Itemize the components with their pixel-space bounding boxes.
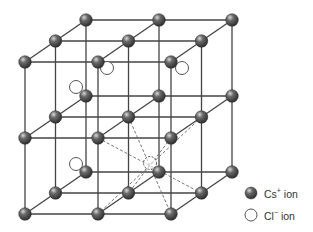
cs-ion <box>153 90 166 103</box>
cs-ion <box>226 14 239 27</box>
cs-ion <box>153 14 166 27</box>
cl-symbol: Cl <box>264 209 274 221</box>
cs-ion <box>19 56 32 69</box>
legend-label-cl: Cl− ion <box>264 209 295 222</box>
cs-ion <box>165 56 178 69</box>
cs-ion <box>195 35 208 48</box>
cs-ion <box>19 132 32 145</box>
cs-ion <box>80 90 93 103</box>
cs-symbol: Cs <box>264 187 277 199</box>
cs-ion <box>165 208 178 221</box>
cl-ion <box>176 62 189 75</box>
legend-item-cs: Cs+ ion <box>244 182 298 204</box>
cs-ion <box>195 111 208 124</box>
cs-ion <box>195 187 208 200</box>
cs-ion-icon <box>244 186 258 200</box>
legend-label-cs: Cs+ ion <box>264 187 298 200</box>
cs-ion <box>49 111 62 124</box>
cs-ion <box>80 14 93 27</box>
cs-ion <box>226 90 239 103</box>
cl-ion-icon <box>244 208 258 222</box>
cl-ion <box>70 81 83 94</box>
cs-ion <box>19 208 32 221</box>
cs-ion <box>92 132 105 145</box>
cs-ion <box>92 208 105 221</box>
cs-ion <box>165 132 178 145</box>
cs-ion <box>92 56 105 69</box>
cs-ion <box>122 187 135 200</box>
cs-suffix: ion <box>281 187 298 199</box>
cs-ion <box>49 187 62 200</box>
cs-ion <box>153 166 166 179</box>
cl-suffix: ion <box>278 209 295 221</box>
cs-ion <box>80 166 93 179</box>
cs-ion <box>49 35 62 48</box>
cs-ion-group <box>19 14 239 221</box>
legend-item-cl: Cl− ion <box>244 204 298 226</box>
cs-ion <box>122 111 135 124</box>
legend: Cs+ ion Cl− ion <box>244 182 298 226</box>
cs-ion <box>122 35 135 48</box>
cs-ion <box>226 166 239 179</box>
